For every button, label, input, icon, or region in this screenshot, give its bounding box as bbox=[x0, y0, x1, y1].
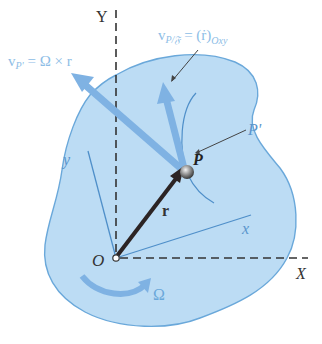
label-y-rotating: y bbox=[61, 151, 71, 169]
label-O: O bbox=[92, 251, 104, 270]
v-transport-rhs: = Ω × r bbox=[24, 53, 72, 69]
label-omega: Ω bbox=[153, 286, 165, 303]
origin-point bbox=[113, 255, 119, 261]
label-r: r bbox=[162, 202, 169, 219]
kinematics-diagram: Y X O y x P P' r Ω vP' = Ω × r vP/𝔉 = (ṙ… bbox=[0, 0, 322, 344]
point-P bbox=[180, 165, 194, 179]
label-P: P bbox=[192, 151, 203, 168]
label-v-transport: vP' = Ω × r bbox=[8, 53, 72, 71]
label-x-rotating: x bbox=[241, 220, 249, 237]
label-Y: Y bbox=[96, 8, 108, 25]
label-X: X bbox=[295, 265, 307, 282]
label-P-prime: P' bbox=[247, 121, 262, 138]
v-relative-rhs-sub: Oxy bbox=[211, 35, 228, 46]
label-v-relative: vP/𝔉 = (ṙ)Oxy bbox=[158, 27, 228, 46]
v-relative-rhs: = (ṙ) bbox=[180, 27, 211, 44]
